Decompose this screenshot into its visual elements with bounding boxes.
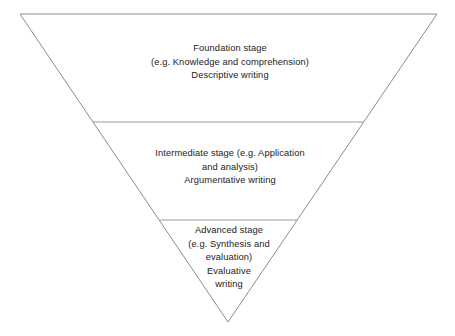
pyramid-outline (20, 14, 437, 322)
inverted-pyramid-diagram: Foundation stage (e.g. Knowledge and com… (0, 0, 455, 336)
pyramid-shape (0, 0, 455, 336)
